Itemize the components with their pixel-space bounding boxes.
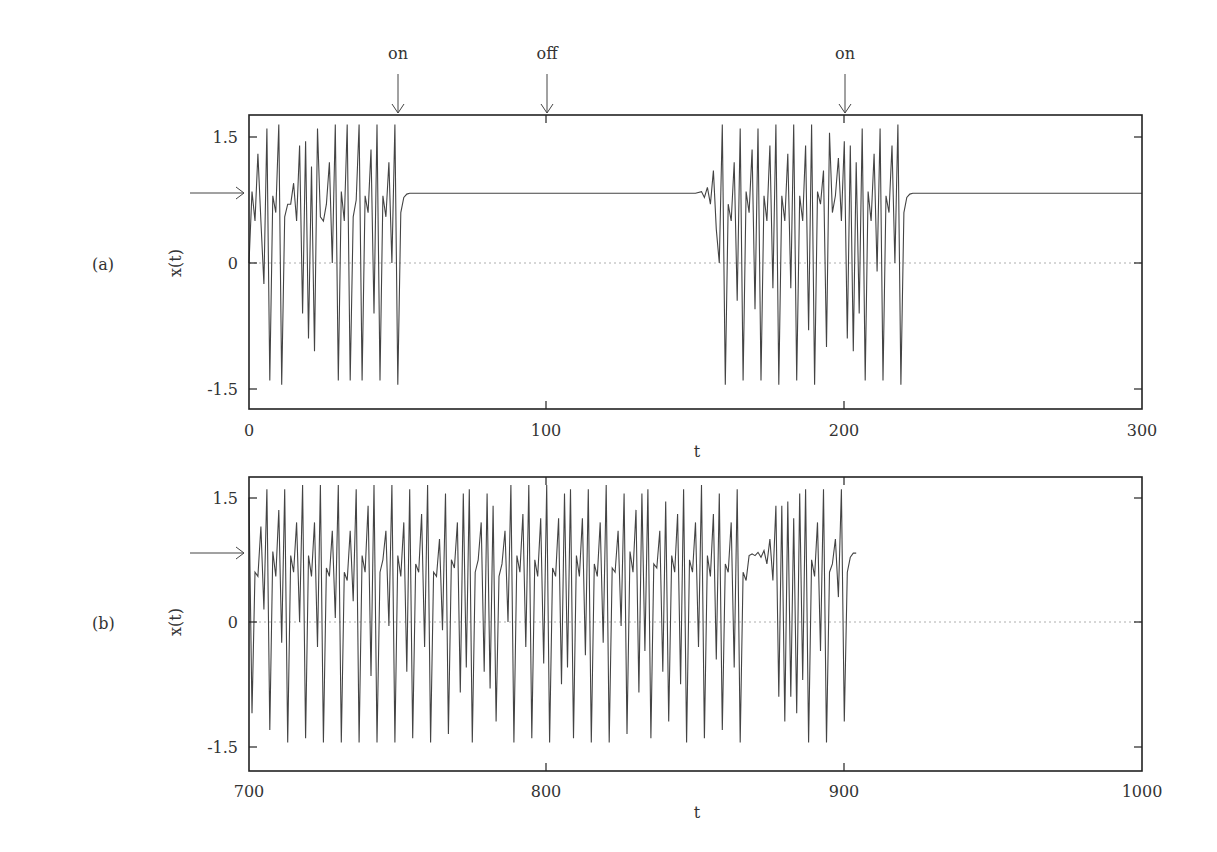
panel-b-ylabel: x(t) (166, 608, 185, 636)
xlabel-a: t (694, 442, 701, 461)
xlabel-b: t (694, 803, 701, 822)
xtick-label: 0 (244, 421, 254, 440)
xtick-label: 1000 (1122, 782, 1163, 801)
xtick-label: 100 (531, 421, 562, 440)
annotation-off: off (537, 44, 560, 63)
ytick-label: -1.5 (207, 738, 238, 757)
ytick-label: 0 (228, 613, 238, 632)
xtick-label: 900 (829, 782, 860, 801)
panel-b: (b) x(t) 1.5 0 -1.5 700 800 900 1000 t (92, 477, 1162, 822)
xtick-label: 300 (1127, 421, 1158, 440)
panel-a-ylabel: x(t) (166, 249, 185, 277)
panel-a: (a) x(t) 1.5 0 -1.5 0 100 200 300 t on (92, 44, 1157, 461)
ytick-label: 1.5 (213, 489, 238, 508)
trace-b (249, 485, 856, 742)
ytick-label: -1.5 (207, 380, 238, 399)
down-arrow-icon (541, 74, 553, 113)
ytick-label: 1.5 (213, 128, 238, 147)
xtick-label: 800 (531, 782, 562, 801)
annotation-on-1: on (388, 44, 408, 63)
ytick-label: 0 (228, 254, 238, 273)
fixed-point-arrow-icon (190, 187, 244, 199)
plot-frame-b (249, 477, 1142, 771)
fixed-point-arrow-icon (190, 547, 244, 559)
down-arrow-icon (839, 74, 851, 113)
xtick-label: 700 (234, 782, 265, 801)
trace-a (249, 124, 1142, 384)
annotation-on-2: on (835, 44, 855, 63)
plot-frame-a (249, 115, 1142, 409)
panel-b-label: (b) (92, 614, 115, 633)
xtick-label: 200 (829, 421, 860, 440)
down-arrow-icon (392, 74, 404, 113)
panel-a-label: (a) (92, 255, 114, 274)
figure: (a) x(t) 1.5 0 -1.5 0 100 200 300 t on (0, 0, 1217, 852)
